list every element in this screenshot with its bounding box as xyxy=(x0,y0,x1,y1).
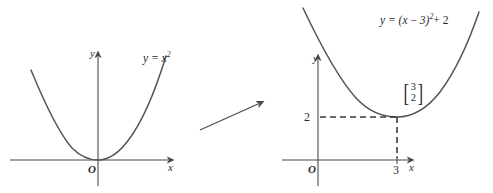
left-equation-exponent: 2 xyxy=(167,50,171,59)
right-equation-label: y = (x − 3)2+ 2 xyxy=(380,15,448,27)
left-origin-label: O xyxy=(88,164,96,175)
transformation-panel: [ 3 2 ] xyxy=(190,0,280,193)
right-equation-prefix: y = (x xyxy=(380,14,408,26)
left-graph-panel: y x O y = x2 xyxy=(0,0,200,193)
left-y-axis-label: y xyxy=(90,48,95,59)
right-x-tick-label-3: 3 xyxy=(393,164,399,176)
translation-arrow xyxy=(200,104,258,130)
right-origin-label: O xyxy=(308,164,316,175)
right-equation-suffix: + 2 xyxy=(433,14,448,26)
parabola-translation-figure: y x O y = x2 [ 3 2 ] xyxy=(0,0,493,193)
right-equation-h: 3) xyxy=(420,14,430,26)
transformation-arrow-svg xyxy=(190,0,280,193)
left-x-axis-label: x xyxy=(168,162,173,173)
right-x-axis-label: x xyxy=(409,162,414,173)
right-graph-panel: y x O 2 3 y = (x − 3)2+ 2 xyxy=(280,0,493,193)
right-y-tick-label-2: 2 xyxy=(304,111,310,123)
left-equation-base: y = x xyxy=(143,52,167,64)
right-y-axis-label: y xyxy=(313,53,318,64)
left-equation-label: y = x2 xyxy=(143,53,171,65)
right-equation-minus: − xyxy=(408,14,420,26)
